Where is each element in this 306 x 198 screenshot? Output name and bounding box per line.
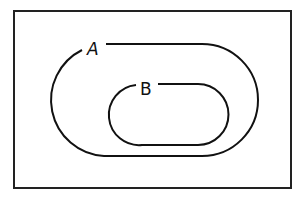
set-a-label: A (86, 39, 99, 59)
set-b-label: B (140, 79, 152, 99)
set-a-outline (51, 44, 258, 156)
universe-rectangle (14, 11, 291, 188)
set-b-outline (109, 84, 229, 145)
euler-diagram: A B (0, 0, 306, 198)
